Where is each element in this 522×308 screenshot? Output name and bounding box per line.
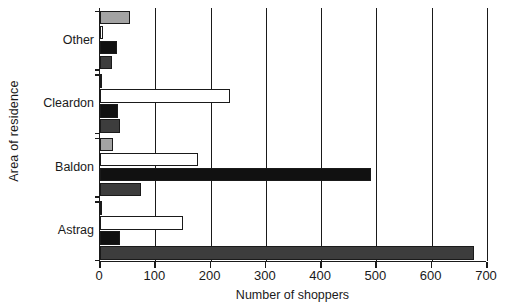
x-axis-tick-labels: 0100200300400500600700	[99, 268, 486, 286]
bar-chart: Area of residence OtherCleardonBaldonAst…	[0, 0, 522, 308]
gridline	[487, 8, 488, 261]
x-axis-tick-label: 0	[95, 268, 102, 283]
bar	[100, 74, 102, 88]
x-axis-tick-label: 200	[199, 268, 221, 283]
x-axis-tick-label: 600	[420, 268, 442, 283]
bar	[100, 183, 141, 197]
bar	[100, 104, 118, 118]
bar	[100, 201, 102, 215]
bar	[100, 26, 103, 40]
bar	[100, 41, 117, 55]
x-axis-tick-label: 700	[475, 268, 497, 283]
plot-area	[99, 8, 486, 262]
bar	[100, 89, 230, 103]
x-axis-tick-label: 500	[365, 268, 387, 283]
y-axis-tick	[95, 260, 100, 262]
y-axis-tick-label: Other	[63, 33, 94, 47]
bar	[100, 56, 112, 70]
x-axis-tick-label: 100	[143, 268, 165, 283]
y-axis-tick-labels: OtherCleardonBaldonAstrag	[28, 8, 98, 262]
y-axis-title: Area of residence	[0, 0, 28, 262]
bar	[100, 11, 130, 25]
y-axis-title-label: Area of residence	[7, 80, 21, 181]
y-axis-tick	[95, 201, 100, 203]
y-axis-tick	[95, 138, 100, 140]
y-axis-tick-label: Baldon	[55, 160, 94, 174]
bar	[100, 138, 113, 152]
y-axis-tick	[95, 133, 100, 135]
bar	[100, 246, 474, 260]
y-axis-tick	[95, 11, 100, 13]
bar	[100, 231, 120, 245]
x-axis-title: Number of shoppers	[99, 288, 486, 302]
y-axis-tick	[95, 196, 100, 198]
bar	[100, 168, 371, 182]
bar	[100, 153, 198, 167]
y-axis-tick-label: Astrag	[58, 223, 94, 237]
x-axis-tick-label: 400	[309, 268, 331, 283]
y-axis-tick-label: Cleardon	[43, 96, 94, 110]
x-axis-tick-label: 300	[254, 268, 276, 283]
y-axis-tick	[95, 74, 100, 76]
bar	[100, 119, 120, 133]
y-axis-tick	[95, 69, 100, 71]
bar-series-container	[100, 8, 486, 261]
bar	[100, 216, 183, 230]
